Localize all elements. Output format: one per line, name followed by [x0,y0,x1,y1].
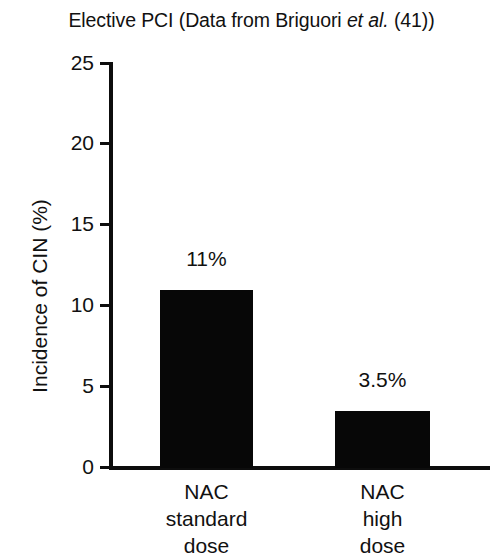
x-cat-0-line-1: standard [131,505,282,532]
y-axis-tick-label-0: 0 [34,456,94,477]
x-axis-category-label-nac-high-dose: NAC high dose [307,478,458,557]
y-axis-tick-label-25-wrap: 25 [34,52,94,73]
y-axis-tick-20 [100,142,111,145]
y-axis-title: Incidence of CIN (%) [29,181,51,411]
y-axis-tick-5 [100,385,111,388]
bar-value-label-nac-standard-dose: 11% [156,248,257,269]
y-axis-tick-label-20-wrap: 20 [34,132,94,153]
y-axis-line [109,62,113,470]
x-cat-0-line-2: dose [131,532,282,557]
chart-title-before: Elective PCI (Data from Briguori [68,9,346,31]
y-axis-tick-label-0-wrap: 0 [34,456,94,477]
chart-title: Elective PCI (Data from Briguori et al. … [0,8,503,32]
x-axis-category-label-nac-standard-dose: NAC standard dose [131,478,282,557]
y-axis-tick-label-20: 20 [34,132,94,153]
bar-value-label-nac-high-dose: 3.5% [332,369,433,390]
x-cat-1-line-0: NAC [307,478,458,505]
y-axis-tick-10 [100,304,111,307]
y-axis-tick-label-25: 25 [34,52,94,73]
y-axis-tick-25 [100,62,111,65]
y-axis-tick-15 [100,223,111,226]
x-cat-1-line-2: dose [307,532,458,557]
x-cat-0-line-0: NAC [131,478,282,505]
bar-nac-standard-dose [160,290,253,468]
bar-nac-high-dose [335,411,430,468]
y-axis-tick-0 [100,466,111,469]
chart-title-italic: et al. [347,9,389,31]
x-cat-1-line-1: high [307,505,458,532]
chart-title-after: (41)) [389,9,435,31]
